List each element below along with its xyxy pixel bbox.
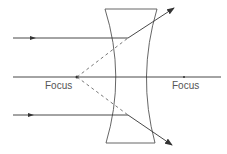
lower-ray-direction-arrow	[28, 113, 34, 117]
concave-lens	[105, 9, 157, 143]
lower-virtual-ray	[77, 77, 128, 115]
right-focus-point	[183, 76, 185, 78]
upper-virtual-ray	[77, 38, 128, 77]
right-focus-label: Focus	[172, 81, 199, 91]
left-focus-label: Focus	[45, 81, 72, 91]
upper-ray-direction-arrow	[30, 36, 36, 40]
concave-lens-diagram	[0, 0, 227, 154]
